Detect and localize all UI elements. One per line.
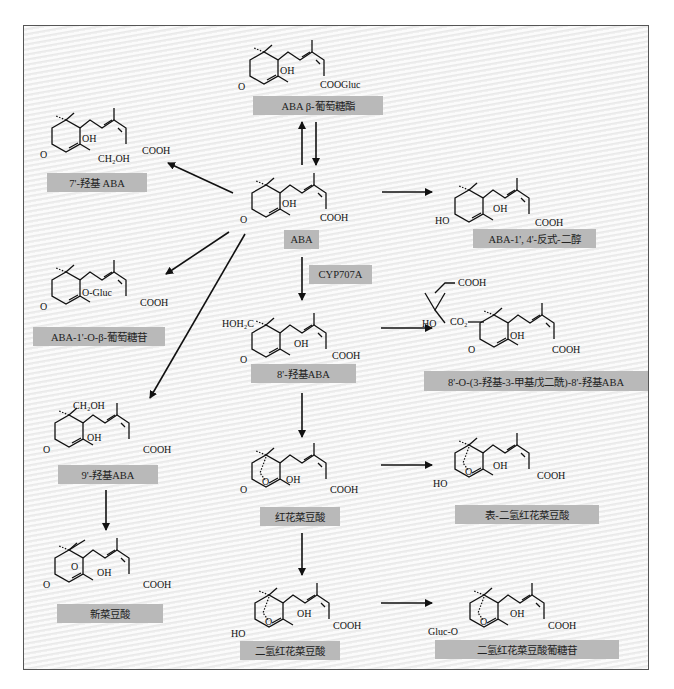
structure-phaseic-acid: O O OH COOH (240, 443, 358, 495)
label-aba: ABA (284, 230, 319, 249)
structure-aba-diol: HO OH COOH (435, 178, 563, 228)
label-neophaseic-acid: 新菜豆酸 (57, 604, 163, 623)
svg-text:O: O (265, 616, 272, 627)
svg-text:CO₂: CO₂ (450, 316, 467, 327)
label-phaseic-acid: 红花菜豆酸 (260, 507, 340, 526)
svg-text:O: O (240, 214, 247, 225)
svg-text:O: O (71, 561, 78, 572)
label-hmg-8-hydroxy-aba: 8'-O-(3-羟基-3-甲基戊二酰)-8'-羟基ABA (424, 371, 648, 391)
label-aba-glucoside: ABA-1'-O-β-葡萄糖苷 (33, 327, 165, 346)
svg-text:OH: OH (510, 330, 524, 341)
svg-text:OH: OH (294, 338, 308, 349)
svg-text:OH: OH (297, 608, 311, 619)
svg-text:COOH: COOH (143, 444, 171, 455)
svg-text:HO: HO (231, 628, 245, 639)
svg-text:OH: OH (493, 203, 507, 214)
svg-text:O: O (262, 476, 269, 487)
structure-hmg-8-hydroxy-aba: O OH COOH COOH HO CO₂ (422, 277, 580, 355)
structure-neophaseic-acid: O O OH COOH (43, 538, 171, 590)
svg-text:COOH: COOH (333, 620, 361, 631)
svg-text:COOH: COOH (143, 579, 171, 590)
structure-7-hydroxy-aba: O OH CH₂OH COOH (40, 108, 170, 164)
svg-text:O-Gluc: O-Gluc (82, 287, 113, 298)
svg-text:CH₂OH: CH₂OH (73, 400, 105, 411)
svg-text:COOGluc: COOGluc (320, 79, 361, 90)
label-aba-glucosyl-ester: ABA β-葡萄糖酯 (253, 96, 383, 115)
label-enzyme-cyp707a: CYP707A (309, 265, 372, 284)
label-9-hydroxy-aba: 9'-羟基ABA (58, 465, 158, 484)
svg-text:OH: OH (282, 198, 296, 209)
svg-text:HO: HO (433, 478, 447, 489)
structure-aba-glucosyl-ester: O OH COOGluc (238, 40, 361, 92)
svg-text:Gluc-O: Gluc-O (428, 626, 458, 637)
svg-text:HOH₂C: HOH₂C (222, 318, 254, 329)
structure-8-hydroxy-aba: HOH₂C O OH COOH (222, 313, 360, 365)
structure-dihydrophaseic-acid: O HO OH COOH (231, 583, 361, 639)
svg-text:O: O (240, 354, 247, 365)
label-7-hydroxy-aba: 7'-羟基 ABA (47, 173, 147, 192)
svg-text:OH: OH (82, 133, 96, 144)
svg-text:OH: OH (493, 460, 507, 471)
svg-text:O: O (240, 484, 247, 495)
label-dihydrophaseic-acid: 二氢红花菜豆酸 (240, 641, 340, 660)
label-8-hydroxy-aba: 8'-羟基ABA (251, 364, 356, 383)
svg-text:OH: OH (286, 474, 300, 485)
label-epi-dihydrophaseic-acid: 表-二氢红花菜豆酸 (455, 505, 599, 524)
structure-epi-dihydrophaseic-acid: O HO OH COOH (433, 433, 565, 489)
arrow-aba-to-9oh (150, 234, 245, 398)
reaction-arrows (106, 122, 432, 603)
svg-text:COOH: COOH (458, 277, 486, 288)
svg-text:O: O (43, 444, 50, 455)
svg-text:O: O (465, 466, 472, 477)
arrow-aba-to-glucoside (166, 232, 229, 274)
svg-text:O: O (480, 616, 487, 627)
svg-text:HO: HO (435, 215, 449, 226)
arrow-aba-to-7oh (168, 163, 233, 193)
svg-text:O: O (40, 149, 47, 160)
svg-text:COOH: COOH (320, 212, 348, 223)
svg-text:COOH: COOH (552, 344, 580, 355)
label-aba-diol: ABA-1', 4'-反式-二醇 (473, 229, 596, 248)
svg-text:O: O (468, 344, 475, 355)
svg-text:OH: OH (87, 432, 101, 443)
label-dpa-glucoside: 二氢红花菜豆酸葡糖苷 (435, 640, 619, 659)
svg-text:COOH: COOH (330, 484, 358, 495)
svg-text:COOH: COOH (537, 470, 565, 481)
structure-aba-glucoside: O O-Gluc COOH (40, 260, 168, 312)
svg-text:CH₂OH: CH₂OH (98, 153, 130, 164)
svg-text:COOH: COOH (535, 217, 563, 228)
structure-aba: O OH COOH (240, 173, 348, 225)
svg-text:O: O (238, 81, 245, 92)
svg-text:COOH: COOH (142, 145, 170, 156)
svg-text:OH: OH (97, 567, 111, 578)
structure-9-hydroxy-aba: CH₂OH O OH COOH (43, 400, 171, 455)
svg-text:OH: OH (510, 608, 524, 619)
svg-text:COOH: COOH (548, 620, 576, 631)
svg-text:O: O (43, 579, 50, 590)
svg-text:COOH: COOH (332, 350, 360, 361)
svg-text:O: O (40, 301, 47, 312)
svg-text:OH: OH (280, 65, 294, 76)
svg-text:COOH: COOH (140, 297, 168, 308)
structure-dpa-glucoside: O Gluc-O OH COOH (428, 583, 576, 637)
